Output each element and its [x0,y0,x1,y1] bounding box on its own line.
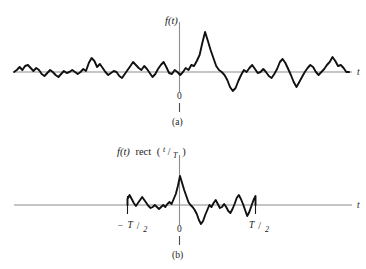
panel-b-y-axis-label: f(t) rect ( t / T ) [117,143,186,160]
panel-b-tick-label-left: − T / 2 [117,214,147,234]
panel-b-label-frac-slash: / [168,147,171,157]
panel-b-caption: (b) [172,250,183,261]
tick-left-den: 2 [143,225,147,234]
panel-b-signal-trace [128,176,256,224]
panel-a: f(t) t 0 (a) [14,15,360,128]
panel-a-x-axis-label: t [357,67,360,77]
tick-right-slash: / [258,221,261,231]
panel-b-label-frac-num: t [163,145,166,154]
panel-b-label-func: f(t) [117,146,130,158]
panel-b-origin-label: 0 [177,224,182,234]
panel-b: f(t) rect ( t / T ) t 0 − T / 2 [14,143,360,262]
panel-a-signal-trace [14,32,349,91]
panel-b-label-paren-close: ) [182,146,186,158]
tick-right-num: T [249,220,255,230]
panel-b-label-paren-open: ( [157,146,161,158]
tick-right-den: 2 [265,225,269,234]
panel-b-tick-label-right: T / 2 [249,214,269,234]
figure-root: f(t) t 0 (a) f(t) rect [0,0,366,269]
signal-figure: f(t) t 0 (a) f(t) rect [0,0,366,269]
tick-left-minus: − [117,221,123,231]
panel-a-caption: (a) [172,117,183,128]
panel-a-origin-label: 0 [177,91,182,101]
panel-b-x-axis-label: t [357,200,360,210]
tick-left-slash: / [137,221,140,231]
panel-b-label-frac-den: T [173,151,178,160]
tick-left-num: T [127,220,133,230]
panel-b-label-rect: rect [135,146,151,157]
panel-a-y-axis-label: f(t) [165,15,178,27]
